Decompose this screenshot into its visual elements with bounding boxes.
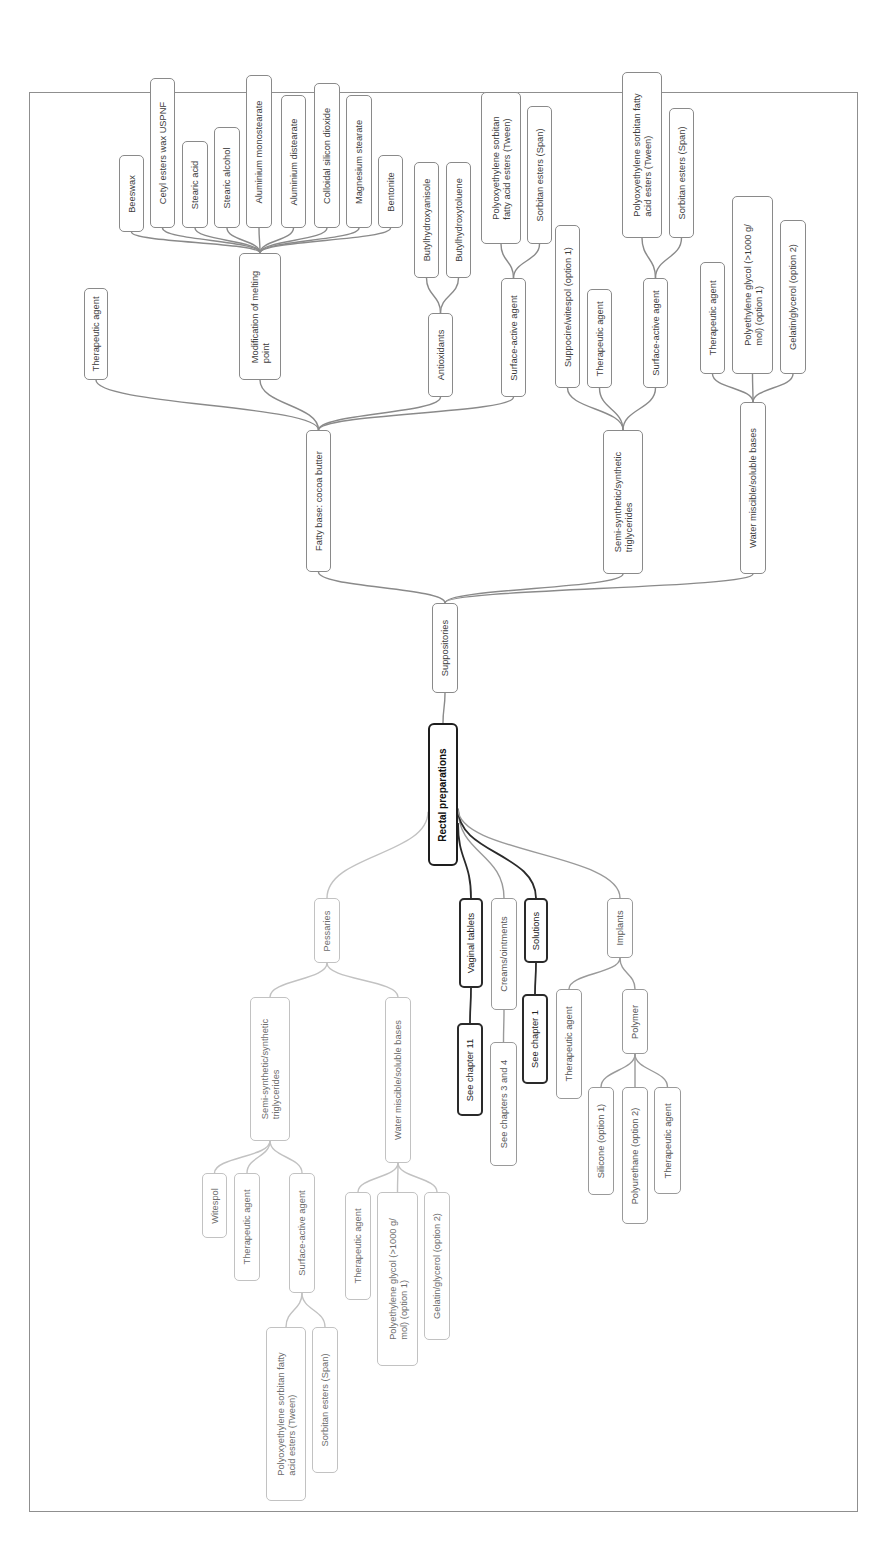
- node-supp: Suppositories: [432, 603, 458, 693]
- node-label: Implants: [615, 910, 626, 945]
- node-label: See chapter 1: [530, 1010, 541, 1068]
- node-label: Semi-synthetic/synthetic triglycerides: [613, 452, 634, 552]
- node-label: Bentonite: [385, 172, 396, 211]
- node-label: Gelatin/glycerol (option 2): [788, 244, 799, 350]
- node-sol: Solutions: [524, 898, 548, 963]
- node-label: Water miscible/soluble bases: [748, 428, 759, 548]
- node-ip1: Silicone (option 1): [588, 1087, 614, 1195]
- node-sol_see: See chapter 1: [522, 994, 548, 1084]
- node-f_anti: Antioxidants: [428, 313, 453, 397]
- node-impl: Implants: [607, 898, 633, 958]
- node-label: Polyoxyethylene sorbitan fatty acid este…: [276, 1352, 297, 1476]
- node-pess: Pessaries: [314, 898, 340, 963]
- node-label: Sorbitan esters (Span): [320, 1353, 331, 1446]
- node-label: Silicone (option 1): [596, 1104, 607, 1178]
- node-label: Aluminium monostearate: [254, 100, 265, 203]
- node-fs1: Polyoxyethylene sorbitan fatty acid este…: [481, 92, 521, 244]
- node-ss1: Polyoxyethylene sorbitan fatty acid este…: [622, 72, 662, 238]
- node-p_water: Water miscible/soluble bases: [385, 997, 411, 1163]
- node-label: Therapeutic agent: [662, 1103, 673, 1178]
- node-label: Therapeutic agent: [353, 1209, 364, 1284]
- node-p_wit: Witespol: [202, 1173, 227, 1238]
- node-label: See chapter 11: [465, 1038, 476, 1100]
- node-label: Stearic alcohol: [222, 147, 233, 208]
- node-water: Water miscible/soluble bases: [740, 402, 766, 574]
- node-label: Polyethylene glycol (>1000 g/ mol) (opti…: [742, 224, 763, 346]
- node-label: Stearic acid: [190, 160, 201, 209]
- node-label: Therapeutic agent: [242, 1190, 253, 1265]
- node-label: Cetyl esters wax USPNF: [157, 102, 168, 204]
- node-label: Polyoxyethylene sorbitan fatty acid este…: [632, 93, 653, 217]
- node-m1: Beeswax: [119, 155, 144, 232]
- node-label: Butylhydroxyanisole: [421, 179, 432, 262]
- root-node-label: Rectal preparations: [438, 748, 449, 841]
- node-ss2: Sorbitan esters (Span): [669, 108, 694, 238]
- node-vag: Vaginal tablets: [459, 898, 483, 988]
- node-label: See chapters 3 and 4: [498, 1060, 509, 1148]
- node-label: Fatty base: cocoa butter: [313, 451, 324, 551]
- node-w_gel: Gelatin/glycerol (option 2): [780, 220, 806, 374]
- node-p_ther: Therapeutic agent: [234, 1173, 260, 1281]
- node-label: Semi-synthetic/synthetic triglycerides: [260, 1019, 281, 1119]
- node-label: Sorbitan esters (Span): [534, 128, 545, 221]
- root-node-rectal-preparations: Rectal preparations: [428, 723, 458, 866]
- node-m9: Bentonite: [378, 155, 403, 228]
- node-label: Pessaries: [322, 910, 333, 951]
- node-m2: Cetyl esters wax USPNF: [150, 78, 175, 228]
- node-s_supp: Suppocire/witespol (option 1): [555, 225, 580, 388]
- node-semi: Semi-synthetic/synthetic triglycerides: [603, 430, 643, 574]
- node-label: Antioxidants: [435, 330, 446, 381]
- node-pw_ther: Therapeutic agent: [345, 1192, 371, 1300]
- node-w_peg: Polyethylene glycol (>1000 g/ mol) (opti…: [732, 196, 773, 374]
- node-a2: Butylhydroxytoluene: [446, 162, 471, 278]
- node-m3: Stearic acid: [182, 141, 208, 228]
- node-label: Aluminium distearate: [288, 118, 299, 205]
- node-label: Witespol: [209, 1188, 220, 1224]
- node-fatty: Fatty base: cocoa butter: [306, 430, 331, 572]
- node-label: Polyethylene glycol (>1000 g/ mol) (opti…: [387, 1218, 408, 1340]
- node-label: Gelatin/glycerol (option 2): [432, 1213, 443, 1319]
- node-vag_see: See chapter 11: [457, 1023, 483, 1116]
- node-label: Vaginal tablets: [466, 913, 477, 973]
- node-label: Therapeutic agent: [707, 281, 718, 356]
- node-ps1: Polyoxyethylene sorbitan fatty acid este…: [266, 1327, 306, 1501]
- node-label: Therapeutic agent: [594, 301, 605, 376]
- node-cream: Creams/ointments: [491, 898, 517, 1010]
- node-w_ther: Therapeutic agent: [700, 262, 725, 374]
- node-p_surf: Surface-active agent: [289, 1173, 315, 1293]
- node-f_ther: Therapeutic agent: [84, 288, 108, 380]
- node-pw_peg: Polyethylene glycol (>1000 g/ mol) (opti…: [377, 1192, 418, 1366]
- node-ps2: Sorbitan esters (Span): [312, 1327, 338, 1473]
- node-label: Suppocire/witespol (option 1): [562, 247, 573, 367]
- node-m7: Colloidal silicon dioxide: [314, 83, 340, 228]
- node-fs2: Sorbitan esters (Span): [527, 106, 552, 244]
- node-pw_gel: Gelatin/glycerol (option 2): [424, 1192, 450, 1340]
- node-label: Suppositories: [440, 620, 451, 676]
- node-label: Magnesium stearate: [354, 119, 365, 203]
- node-ip3: Therapeutic agent: [654, 1087, 681, 1194]
- node-label: Polyurethane (option 2): [630, 1107, 641, 1204]
- node-label: Polyoxyethylene sorbitan fatty acid este…: [491, 116, 512, 219]
- node-label: Surface-active agent: [508, 295, 519, 380]
- node-i_ther: Therapeutic agent: [556, 989, 582, 1099]
- node-label: Water miscible/soluble bases: [393, 1020, 404, 1140]
- node-m5: Aluminium monostearate: [246, 75, 272, 228]
- node-label: Surface-active agent: [297, 1190, 308, 1275]
- node-label: Therapeutic agent: [564, 1007, 575, 1082]
- node-label: Colloidal silicon dioxide: [322, 107, 333, 203]
- node-f_surf: Surface-active agent: [501, 278, 526, 397]
- node-i_poly: Polymer: [622, 989, 648, 1054]
- node-label: Polymer: [630, 1004, 641, 1038]
- node-f_mod: Modification of melting point: [239, 253, 281, 380]
- node-label: Solutions: [531, 911, 542, 949]
- node-label: Butylhydroxytoluene: [453, 178, 464, 262]
- node-s_surf: Surface-active agent: [643, 278, 668, 388]
- node-label: Modification of melting point: [250, 270, 271, 363]
- node-s_ther: Therapeutic agent: [587, 289, 612, 388]
- node-label: Sorbitan esters (Span): [676, 126, 687, 219]
- node-a1: Butylhydroxyanisole: [414, 162, 439, 278]
- node-label: Beeswax: [126, 175, 137, 213]
- node-m8: Magnesium stearate: [346, 95, 372, 228]
- node-m4: Stearic alcohol: [214, 127, 240, 228]
- node-label: Creams/ointments: [499, 916, 510, 991]
